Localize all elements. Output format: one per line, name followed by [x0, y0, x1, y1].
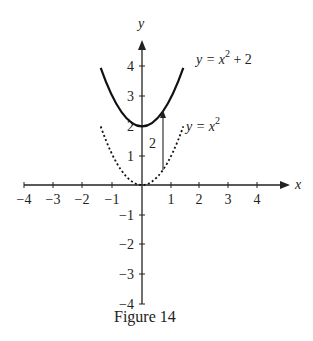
svg-text:1: 1 [168, 192, 175, 207]
x-axis-label: x [294, 177, 302, 192]
svg-text:−1: −1 [105, 192, 120, 207]
svg-text:−2: −2 [119, 237, 134, 252]
y-axis-label: y [136, 16, 145, 31]
svg-text:4: 4 [254, 192, 261, 207]
svg-text:−1: −1 [119, 208, 134, 223]
svg-text:3: 3 [127, 89, 134, 104]
svg-text:4: 4 [127, 59, 134, 74]
svg-text:−2: −2 [75, 192, 90, 207]
figure-caption: Figure 14 [114, 308, 176, 326]
svg-text:2: 2 [196, 192, 203, 207]
curve-lower-label: y = x2 [184, 115, 220, 134]
svg-text:1: 1 [127, 149, 134, 164]
figure-canvas: −4 −3 −2 −1 1 2 3 4 4 3 2 1 −1 −2 −3 −4 … [0, 0, 313, 341]
y-axis-arrow-icon [138, 40, 146, 50]
curve-upper-label: y = x2 + 2 [194, 48, 252, 67]
svg-text:−4: −4 [17, 192, 32, 207]
shift-label: 2 [149, 136, 156, 151]
x-tick-labels: −4 −3 −2 −1 1 2 3 4 [17, 192, 261, 207]
svg-text:−3: −3 [119, 267, 134, 282]
x-axis-arrow-icon [280, 181, 290, 189]
svg-text:−3: −3 [46, 192, 61, 207]
svg-text:3: 3 [225, 192, 232, 207]
